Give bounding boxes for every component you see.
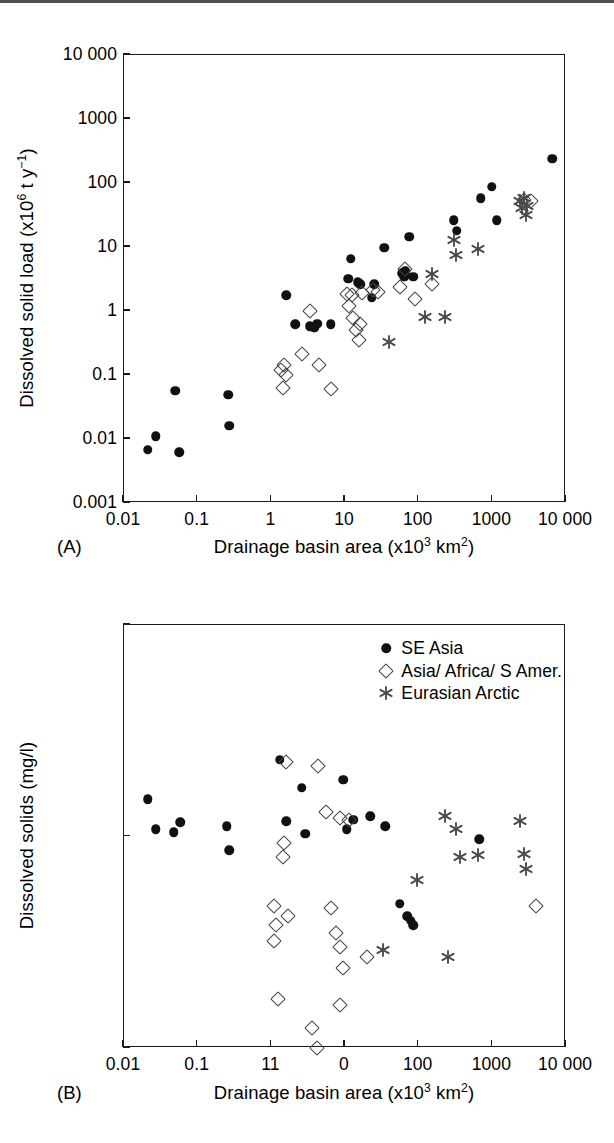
x-tick [564,1040,566,1047]
legend-marker-glyph [379,686,394,701]
x-tick-label: 100 [403,1054,433,1074]
data-point [336,960,352,976]
x-tick [343,495,345,502]
data-point [405,232,415,242]
legend-label: Eurasian Arctic [401,682,519,705]
data-point [349,815,359,825]
y-tick [123,117,130,119]
data-point [271,991,287,1007]
data-point [279,367,295,383]
y-tick [123,835,130,837]
y-tick [123,245,130,247]
y-tick-label: 0.1 [92,364,117,384]
data-point [323,900,339,916]
data-point [309,1040,325,1056]
data-point [277,357,293,373]
data-point [277,835,293,851]
y-tick [123,623,130,625]
x-tick-label: 1000 [472,509,511,529]
data-point [343,274,353,284]
x-tick [491,1040,493,1047]
x-tick-label: 0.1 [184,509,209,529]
data-point [342,812,358,828]
data-point [438,809,453,824]
panel-a: Dissolved solid load (x106 t y−1) 0.010.… [0,0,614,572]
panel-a-label: (A) [57,536,82,558]
data-point [303,303,319,319]
legend-marker-open-diamond [375,660,397,682]
x-tick [196,495,198,502]
data-point [344,288,360,304]
panel-b: Dissolved solids (mg/l) SE AsiaAsia/ Afr… [0,572,614,1143]
data-point [353,278,363,288]
data-point [174,448,184,458]
data-point [225,421,235,431]
data-point [380,821,390,831]
legend-marker-glyph [379,663,395,679]
data-point [392,279,408,295]
y-tick [123,437,130,439]
data-point [365,811,375,821]
data-point [471,242,486,257]
data-point [279,754,295,770]
data-point [143,795,153,805]
data-point [273,362,289,378]
y-tick-label: 10 000 [63,44,117,64]
y-tick-label: 10 [97,236,117,256]
data-point [223,390,233,400]
x-tick-label: 0.01 [106,509,140,529]
x-tick-label: 1000 [472,1054,511,1074]
x-tick-label: 100 [403,509,433,529]
data-point [332,997,348,1013]
data-point [282,291,292,301]
legend-marker-asterisk [375,682,397,704]
data-point [326,320,336,330]
data-point [398,261,414,277]
y-tick [123,181,130,183]
data-point [395,899,405,909]
data-point [449,216,459,226]
data-point [225,846,235,856]
panel-a-x-axis-title: Drainage basin area (x103 km2) [123,536,565,558]
data-point [520,198,535,213]
data-point [323,381,339,397]
x-tick [417,495,419,502]
data-point [400,272,410,282]
data-point [370,280,380,290]
data-point [547,154,557,164]
data-point [476,193,486,203]
data-point [309,323,319,333]
data-point [359,949,375,965]
data-point [424,266,439,281]
y-tick-label: 1 [107,300,117,320]
panel-b-x-axis-title: Drainage basin area (x103 km2) [123,1082,565,1104]
figure-root: Dissolved solid load (x106 t y−1) 0.010.… [0,0,614,1143]
data-point [379,243,389,253]
data-point [297,783,307,793]
y-tick [123,53,130,55]
x-tick [270,495,272,502]
legend: SE AsiaAsia/ Africa/ S Amer.Eurasian Arc… [375,637,562,705]
data-point [452,850,467,865]
data-point [290,320,300,330]
data-point [281,908,297,924]
data-point [367,293,377,303]
data-point [351,332,367,348]
x-tick [343,1040,345,1047]
data-point [408,291,424,307]
y-tick-label: 0.001 [73,492,117,512]
data-point [175,817,185,827]
y-tick-label: 0.01 [83,428,117,448]
x-tick-label: 1 [265,509,275,529]
x-tick [564,495,566,502]
data-point [275,755,285,765]
panel-a-y-axis-title: Dissolved solid load (x106 t y−1) [16,54,38,502]
panel-b-plot-frame: SE AsiaAsia/ Africa/ S Amer.Eurasian Arc… [123,624,565,1047]
data-point [346,254,356,264]
legend-marker-filled-circle [375,637,397,659]
x-tick [270,1040,272,1047]
x-tick-label: 11 [261,1054,279,1074]
legend-item: Eurasian Arctic [375,682,562,705]
data-point [339,775,349,785]
data-point [328,925,344,941]
